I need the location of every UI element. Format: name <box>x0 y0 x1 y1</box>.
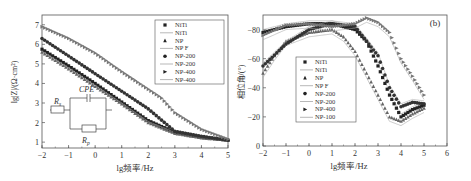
legend-a: NiTiNiTiNPNP FNP-200NP-200NP-400NP-400 <box>155 20 224 84</box>
x-axis-label-b: lg频率/Hz <box>331 161 368 171</box>
legend-item: NP <box>175 37 184 44</box>
legend-item: NP-400 <box>175 68 195 75</box>
x-tick-label: 5 <box>226 151 230 160</box>
figure: −2−1012345 1234567 lg频率/Hz lg|Z|/(Ω·cm²)… <box>0 0 471 181</box>
y-tick-label: 1 <box>35 138 39 147</box>
x-tick-label: −2 <box>38 151 47 160</box>
legend-item: NiTi <box>315 58 327 65</box>
x-axis-ticks-a: −2−1012345 <box>38 145 230 160</box>
legend-item: NiTi <box>315 66 327 73</box>
legend-item: NiTi <box>175 29 187 36</box>
x-tick-label: 0 <box>307 149 311 158</box>
equivalent-circuit-inset <box>50 94 112 132</box>
x-tick-label: 3 <box>376 149 380 158</box>
x-tick-label: 6 <box>445 149 449 158</box>
x-tick-label: 1 <box>330 149 334 158</box>
y-tick-label: 7 <box>35 21 39 30</box>
y-tick-label: 4 <box>35 79 39 88</box>
y-tick-label: 3 <box>35 99 39 108</box>
circuit-label-rs: Rs <box>53 97 61 107</box>
y-axis-label-b: 相位角/(°) <box>236 64 246 99</box>
x-tick-label: 0 <box>93 151 97 160</box>
resistor-rp-icon <box>82 125 96 132</box>
circuit-label-cpe: CPE <box>79 85 94 94</box>
chart-a: −2−1012345 1234567 lg频率/Hz lg|Z|/(Ω·cm²)… <box>10 15 230 173</box>
y-tick-label: −80 <box>247 26 260 35</box>
x-axis-ticks-b: −2−10123456 <box>259 143 449 158</box>
legend-item: NP-200 <box>315 90 335 97</box>
y-axis-label-a: lg|Z|/(Ω·cm²) <box>10 60 19 103</box>
legend-item: NP F <box>175 44 189 51</box>
legend-item: NP <box>315 74 324 81</box>
legend-item: NP F <box>315 82 329 89</box>
x-tick-label: 4 <box>199 151 203 160</box>
y-tick-label: 6 <box>35 40 39 49</box>
x-tick-label: 2 <box>146 151 150 160</box>
circuit-label-rp: Rp <box>81 136 90 146</box>
legend-b: NiTiNiTiNPNP FNP-200NP-200NP-400NP-100 <box>296 57 356 122</box>
x-tick-label: 3 <box>173 151 177 160</box>
legend-item: NP-100 <box>315 113 335 120</box>
x-axis-label-a: lg频率/Hz <box>117 163 154 173</box>
y-tick-label: 5 <box>35 60 39 69</box>
legend-item: NiTi <box>175 21 187 28</box>
y-tick-label: 2 <box>35 119 39 128</box>
chart-b: −2−10123456 0−20−40−60−80 lg频率/Hz 相位角/(°… <box>236 15 449 171</box>
resistor-rs-icon <box>51 106 64 113</box>
y-tick-label: 0 <box>256 142 260 151</box>
y-tick-label: −20 <box>247 113 260 122</box>
x-tick-label: 4 <box>399 149 403 158</box>
x-tick-label: 1 <box>120 151 124 160</box>
x-tick-label: 5 <box>422 149 426 158</box>
legend-item: NP-200 <box>175 60 195 67</box>
legend-item: NP-400 <box>175 76 195 83</box>
legend-item: NP-400 <box>315 105 335 112</box>
legend-item: NP-200 <box>175 52 195 59</box>
y-tick-label: −40 <box>247 84 260 93</box>
y-tick-label: −60 <box>247 55 260 64</box>
panel-label-b: (b) <box>430 18 441 28</box>
x-tick-label: −1 <box>282 149 291 158</box>
x-tick-label: −1 <box>64 151 73 160</box>
legend-item: NP-200 <box>315 98 335 105</box>
x-tick-label: 2 <box>353 149 357 158</box>
x-tick-label: −2 <box>259 149 268 158</box>
